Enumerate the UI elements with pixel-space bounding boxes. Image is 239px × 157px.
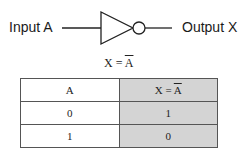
header-x-a-bar: A [174, 84, 182, 96]
cell-x: 0 [119, 125, 218, 148]
not-gate-triangle [101, 12, 133, 44]
output-label: Output X [182, 19, 237, 35]
cell-a: 1 [21, 125, 120, 148]
table-row: 1 0 [21, 125, 218, 148]
cell-a: 0 [21, 102, 120, 125]
truth-table: A X = A 0 1 1 0 [20, 78, 218, 148]
inversion-bubble [133, 22, 145, 34]
table-header-row: A X = A [21, 79, 218, 102]
header-x: X = A [119, 79, 218, 102]
header-x-lhs: X = [155, 84, 174, 96]
equation-lhs: X = [104, 56, 125, 70]
cell-x: 1 [119, 102, 218, 125]
equation-rhs-a-bar: A [125, 56, 134, 70]
header-a: A [21, 79, 120, 102]
table-row: 0 1 [21, 102, 218, 125]
boolean-equation: X = A [104, 56, 133, 71]
